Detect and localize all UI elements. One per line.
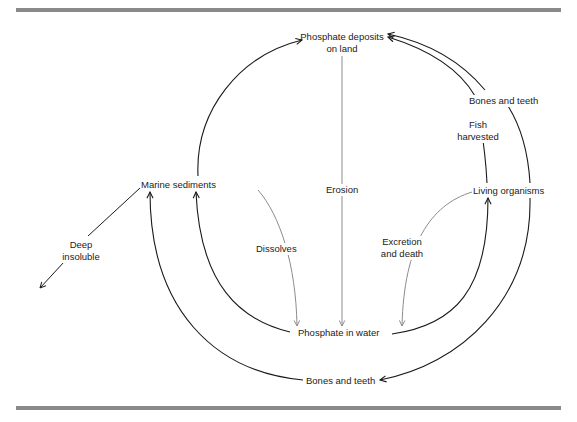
- node-phosphate-land-line1: Phosphate deposits: [300, 31, 384, 43]
- dissolves-arrow: [258, 190, 297, 326]
- label-deep-insoluble: Deep insoluble: [59, 239, 103, 263]
- deep-insoluble-arrow: [40, 188, 140, 288]
- label-excretion-line2: and death: [379, 248, 425, 260]
- label-fish-harvested: Fish harvested: [455, 119, 501, 143]
- bottom-rule: [16, 406, 561, 410]
- label-excretion: Excretion and death: [379, 236, 425, 260]
- node-phosphate-land: Phosphate deposits on land: [300, 31, 384, 55]
- sediments-to-land-arrow: [198, 40, 302, 176]
- label-bones-top: Bones and teeth: [469, 95, 538, 107]
- label-excretion-line1: Excretion: [379, 236, 425, 248]
- node-living-organisms: Living organisms: [473, 185, 544, 197]
- label-bones-bottom: Bones and teeth: [306, 375, 375, 387]
- water-to-sediments-arrow: [196, 192, 290, 332]
- label-deep-line2: insoluble: [59, 251, 103, 263]
- label-erosion: Erosion: [326, 184, 358, 196]
- label-fish-line1: Fish: [455, 119, 501, 131]
- label-deep-line1: Deep: [59, 239, 103, 251]
- label-fish-line2: harvested: [455, 131, 501, 143]
- fish-harvested-arrow: [388, 37, 487, 183]
- node-marine-sediments: Marine sediments: [141, 179, 216, 191]
- water-to-organisms-arrow: [392, 198, 488, 334]
- bones-bottom-to-sediments-arrow: [150, 192, 303, 380]
- label-dissolves: Dissolves: [256, 243, 297, 255]
- organisms-to-bones-bottom-arrow: [380, 198, 530, 380]
- bones-top-arrow: [388, 34, 530, 183]
- node-phosphate-land-line2: on land: [300, 43, 384, 55]
- cycle-diagram: [0, 0, 577, 422]
- node-phosphate-water: Phosphate in water: [298, 327, 379, 339]
